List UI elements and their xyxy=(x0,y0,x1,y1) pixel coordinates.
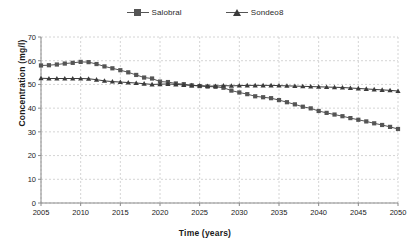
x-axis-title: Time (years) xyxy=(0,228,410,238)
svg-text:2020: 2020 xyxy=(152,208,169,217)
svg-text:2050: 2050 xyxy=(390,208,407,217)
svg-text:2005: 2005 xyxy=(33,208,50,217)
y-tick-labels: 010203040506070 xyxy=(28,33,41,208)
svg-text:2025: 2025 xyxy=(191,208,208,217)
svg-text:2010: 2010 xyxy=(72,208,89,217)
grid-lines xyxy=(41,37,398,203)
svg-text:2045: 2045 xyxy=(350,208,367,217)
svg-text:30: 30 xyxy=(28,128,36,137)
svg-text:2035: 2035 xyxy=(271,208,288,217)
svg-text:10: 10 xyxy=(28,175,36,184)
y-axis-title: Concentration (mg/l) xyxy=(17,23,27,143)
svg-text:70: 70 xyxy=(28,33,36,42)
plot-area: 010203040506070 200520102015202020252030… xyxy=(0,0,410,250)
svg-text:50: 50 xyxy=(28,80,36,89)
svg-text:0: 0 xyxy=(32,199,36,208)
svg-text:2015: 2015 xyxy=(112,208,129,217)
svg-text:40: 40 xyxy=(28,104,36,113)
x-tick-labels: 2005201020152020202520302035204020452050 xyxy=(33,203,407,217)
svg-text:2040: 2040 xyxy=(310,208,327,217)
svg-text:20: 20 xyxy=(28,151,36,160)
chart-container: Salobral Sondeo8 010203040506070 2005201… xyxy=(0,0,410,250)
svg-text:2030: 2030 xyxy=(231,208,248,217)
svg-text:60: 60 xyxy=(28,57,36,66)
series-salobral xyxy=(39,60,400,131)
